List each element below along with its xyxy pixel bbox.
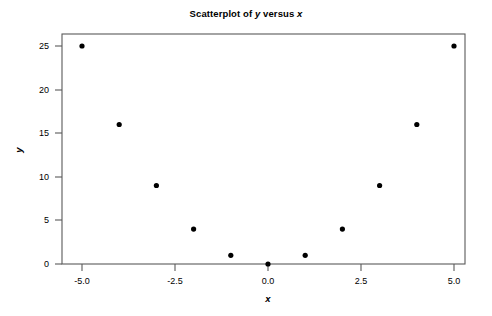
y-axis-title: y <box>13 147 24 154</box>
data-point <box>414 122 419 127</box>
y-axis-ticks <box>55 46 62 264</box>
x-tick-label: 5.0 <box>448 276 461 286</box>
x-tick-label: -2.5 <box>167 276 183 286</box>
y-tick-label: 25 <box>39 41 49 51</box>
data-point <box>191 227 196 232</box>
x-tick-label: 2.5 <box>355 276 368 286</box>
x-tick-label: -5.0 <box>74 276 90 286</box>
data-point <box>265 261 270 266</box>
y-axis-tick-labels: 0 5 10 15 20 25 <box>39 41 49 269</box>
data-point <box>451 43 456 48</box>
plot-area: -5.0 -2.5 0.0 2.5 5.0 0 5 10 15 20 25 x … <box>0 0 492 316</box>
y-tick-label: 5 <box>44 215 49 225</box>
data-point <box>377 183 382 188</box>
data-point <box>117 122 122 127</box>
data-point <box>79 43 84 48</box>
data-point <box>303 253 308 258</box>
data-point <box>154 183 159 188</box>
data-point <box>228 253 233 258</box>
plot-frame <box>62 34 465 264</box>
y-tick-label: 20 <box>39 85 49 95</box>
data-point <box>340 227 345 232</box>
x-axis-title: x <box>264 293 271 304</box>
y-tick-label: 15 <box>39 128 49 138</box>
data-point-series <box>79 43 456 266</box>
y-tick-label: 10 <box>39 172 49 182</box>
x-axis-tick-labels: -5.0 -2.5 0.0 2.5 5.0 <box>74 276 460 286</box>
y-tick-label: 0 <box>44 259 49 269</box>
scatterplot-figure: Scatterplot of y versus x -5.0 -2.5 0.0 … <box>0 0 492 316</box>
x-tick-label: 0.0 <box>262 276 275 286</box>
